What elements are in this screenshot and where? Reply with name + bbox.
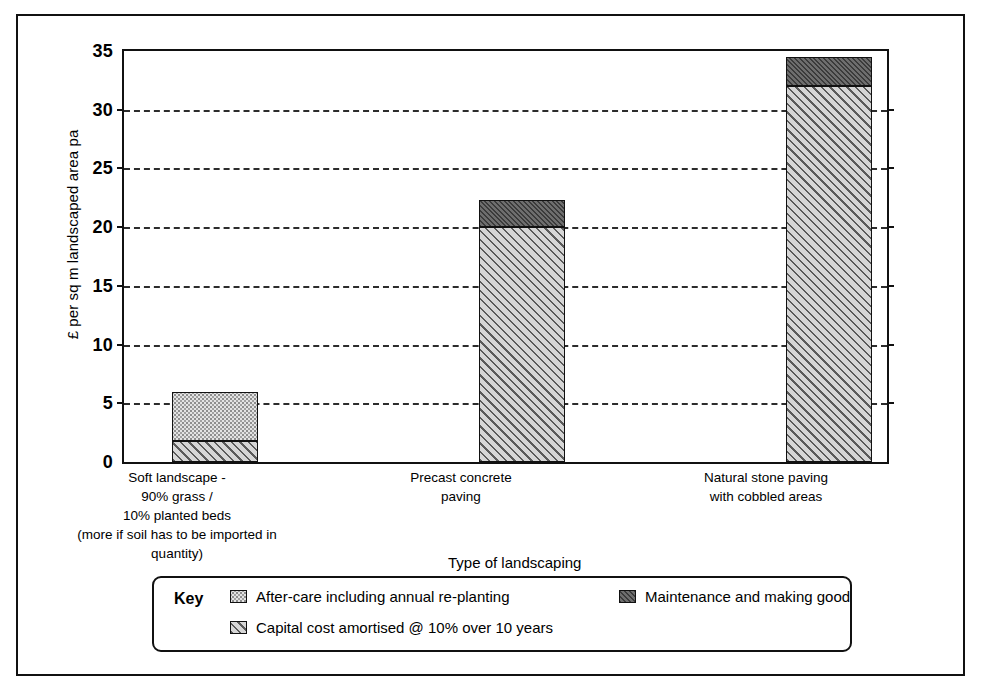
plot-area: 35 30 25 20 15 10 5 0 <box>122 49 887 464</box>
ytick-label-15: 15 <box>92 275 113 296</box>
ytick-mark-20 <box>117 226 124 228</box>
x-category-label-precast-concrete: Precast concrete paving <box>343 468 579 506</box>
legend-label-after-care: After-care including annual re-planting <box>256 588 509 605</box>
ytick-mark-right-30 <box>887 109 894 111</box>
ytick-mark-right-20 <box>887 226 894 228</box>
legend-title: Key <box>174 590 203 608</box>
ytick-label-25: 25 <box>92 158 113 179</box>
legend-item-after-care[interactable]: After-care including annual re-planting <box>230 588 509 605</box>
legend-item-maintenance[interactable]: Maintenance and making good <box>619 588 850 605</box>
bar-segment-maintenance[interactable] <box>479 200 565 227</box>
bar-group-soft-landscape[interactable] <box>172 392 258 463</box>
ytick-mark-right-15 <box>887 285 894 287</box>
bar-segment-capital-cost[interactable] <box>786 86 872 462</box>
gridline-30 <box>124 110 887 112</box>
legend-label-maintenance: Maintenance and making good <box>645 588 850 605</box>
bar-segment-capital-cost[interactable] <box>172 441 258 462</box>
ytick-mark-right-5 <box>887 402 894 404</box>
bar-segment-capital-cost[interactable] <box>479 227 565 462</box>
ytick-label-30: 30 <box>92 99 113 120</box>
x-category-label-soft-landscape: Soft landscape - 90% grass / 10% planted… <box>46 468 308 563</box>
ytick-label-5: 5 <box>103 393 113 414</box>
legend: Key After-care including annual re-plant… <box>152 576 852 652</box>
ytick-mark-10 <box>117 344 124 346</box>
x-axis-title: Type of landscaping <box>448 554 581 571</box>
legend-swatch-maintenance-icon <box>619 590 636 603</box>
legend-label-capital-cost: Capital cost amortised @ 10% over 10 yea… <box>256 619 553 636</box>
ytick-mark-right-25 <box>887 167 894 169</box>
chart-outer-frame: £ per sq m landscaped area pa 35 30 25 2… <box>16 14 965 676</box>
legend-swatch-capital-cost-icon <box>230 621 247 634</box>
x-category-label-natural-stone: Natural stone paving with cobbled areas <box>648 468 884 506</box>
legend-item-capital-cost[interactable]: Capital cost amortised @ 10% over 10 yea… <box>230 619 553 636</box>
ytick-mark-30 <box>117 109 124 111</box>
stacked-bar-chart-figure: £ per sq m landscaped area pa 35 30 25 2… <box>18 16 963 674</box>
y-axis-title: £ per sq m landscaped area pa <box>64 95 81 375</box>
ytick-mark-right-10 <box>887 344 894 346</box>
bar-group-natural-stone[interactable] <box>786 57 872 462</box>
bar-segment-after-care[interactable] <box>172 392 258 441</box>
ytick-mark-25 <box>117 167 124 169</box>
ytick-label-10: 10 <box>92 334 113 355</box>
ytick-mark-5 <box>117 402 124 404</box>
gridline-25 <box>124 168 887 170</box>
ytick-label-20: 20 <box>92 217 113 238</box>
legend-swatch-after-care-icon <box>230 590 247 603</box>
ytick-label-35: 35 <box>92 41 113 62</box>
ytick-mark-15 <box>117 285 124 287</box>
bar-segment-maintenance[interactable] <box>786 57 872 86</box>
bar-group-precast-concrete[interactable] <box>479 200 565 462</box>
